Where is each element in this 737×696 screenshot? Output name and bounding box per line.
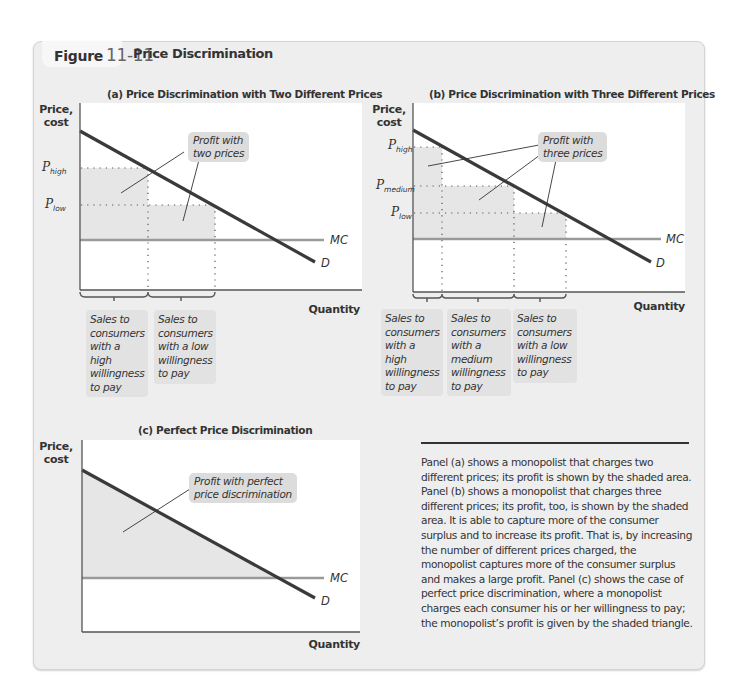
caption-rule: [421, 442, 689, 444]
mc-label: MC: [330, 571, 348, 585]
demand-label: D: [321, 594, 330, 608]
profit-callout: Profit with perfectprice discrimination: [189, 473, 297, 503]
figure-caption: Panel (a) shows a monopolist that charge…: [421, 455, 693, 630]
panel-c-x-axis-label: Quantity: [300, 638, 360, 651]
